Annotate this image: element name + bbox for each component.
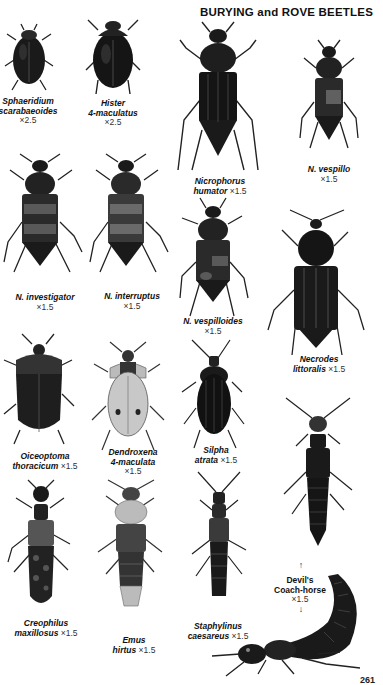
caption-emus: Emus hirtus ×1.5 xyxy=(113,636,156,655)
beetle-flat-icon xyxy=(2,334,76,444)
caption-n-interruptus: N. interruptus ×1.5 xyxy=(104,292,160,311)
beetle-oval-icon xyxy=(82,14,144,94)
caption-silpha: Silpha atrata ×1.5 xyxy=(195,446,237,465)
caption-sphaeridium: Sphaeridium scarabaeoides ×2.5 xyxy=(0,97,58,126)
rove-beetle-icon xyxy=(278,398,358,558)
illustration-oiceoptoma xyxy=(2,334,76,444)
illustration-sphaeridium xyxy=(4,22,54,92)
beetle-oval-icon xyxy=(90,340,166,450)
illustration-n-vespilloides xyxy=(176,198,250,316)
caption-n-investigator: N. investigator ×1.5 xyxy=(15,293,74,312)
illustration-n-investigator xyxy=(2,152,82,272)
illustration-silpha xyxy=(180,338,248,448)
illustration-devils-coach-horse-dorsal xyxy=(278,398,358,558)
page-number: 261 xyxy=(360,675,375,685)
caption-staphylinus: Staphylinus caesareus ×1.5 xyxy=(188,622,249,641)
illustration-creophilus xyxy=(6,478,76,616)
illustration-n-interruptus xyxy=(88,152,168,272)
caption-nicrophorus-humator: Nicrophorus humator ×1.5 xyxy=(193,177,246,196)
rove-beetle-icon xyxy=(6,478,76,616)
caption-hister: Hister 4-maculatus ×2.5 xyxy=(88,99,138,128)
illustration-nicrophorus-humator xyxy=(172,20,264,180)
caption-creophilus: Creophilus maxillosus ×1.5 xyxy=(14,619,77,638)
caption-n-vespilloides: N. vespilloides ×1.5 xyxy=(183,317,243,336)
page-title: BURYING and ROVE BEETLES xyxy=(200,6,373,18)
caption-necrodes: Necrodes littoralis ×1.5 xyxy=(293,355,345,374)
caption-oiceoptoma: Oiceoptoma thoracicum ×1.5 xyxy=(13,452,78,471)
beetle-elongate-icon xyxy=(296,38,362,150)
beetle-oval-icon xyxy=(4,22,54,92)
illustration-n-vespillo xyxy=(296,38,362,150)
illustration-necrodes xyxy=(268,210,364,355)
rove-beetle-icon xyxy=(96,476,166,616)
beetle-elongate-icon xyxy=(88,152,168,272)
rove-beetle-icon xyxy=(186,470,252,612)
beetle-oval-icon xyxy=(180,338,248,448)
illustration-staphylinus xyxy=(186,470,252,612)
caption-dendroxena: Dendroxena 4-maculata ×1.5 xyxy=(108,448,157,477)
beetle-elongate-icon xyxy=(172,20,264,180)
beetle-elongate-icon xyxy=(176,198,250,316)
illustration-emus xyxy=(96,476,166,616)
beetle-elongate-icon xyxy=(268,210,364,355)
arrow-up-icon: ↑ xyxy=(299,560,304,570)
illustration-dendroxena xyxy=(90,340,166,450)
illustration-hister xyxy=(82,14,144,94)
beetle-elongate-icon xyxy=(2,152,82,272)
caption-n-vespillo: N. vespillo ×1.5 xyxy=(308,165,351,184)
